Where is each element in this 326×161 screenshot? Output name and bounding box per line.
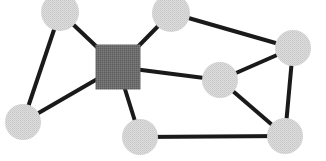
graph-edge (140, 136, 285, 137)
graph-edge (171, 13, 293, 48)
graph-node-circle (122, 119, 158, 155)
graph-node-hub-square (96, 45, 141, 90)
graph-node-circle (267, 118, 303, 154)
graph-node-circle (275, 30, 311, 66)
edge-layer (23, 12, 293, 137)
graph-node-circle (5, 104, 41, 140)
network-graph-canvas (0, 0, 326, 161)
graph-node-circle (202, 62, 238, 98)
network-graph-figure (0, 0, 326, 161)
node-layer (5, 0, 311, 155)
